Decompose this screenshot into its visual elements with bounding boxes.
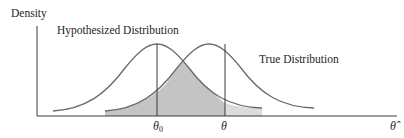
y-axis-label: Density xyxy=(11,7,47,19)
x-axis-label: θ̂ xyxy=(390,119,396,134)
distribution-diagram xyxy=(0,0,404,138)
true-distribution-label: True Distribution xyxy=(259,53,339,65)
theta-label: θ xyxy=(221,119,227,134)
overlap-shade-light xyxy=(225,103,262,116)
hypothesized-distribution-label: Hypothesized Distribution xyxy=(57,24,179,36)
theta0-subscript: 0 xyxy=(159,125,163,134)
theta0-label: θ0 xyxy=(153,119,163,134)
